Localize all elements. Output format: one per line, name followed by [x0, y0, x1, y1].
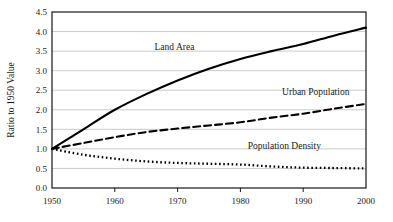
y-tick-label: 3.0 [36, 66, 48, 76]
y-axis-tick-labels: 0.00.51.01.52.02.53.03.54.04.5 [36, 7, 48, 193]
y-tick-label: 1.0 [36, 144, 48, 154]
y-tick-label: 4.0 [36, 27, 48, 37]
x-tick-label: 1950 [43, 196, 62, 206]
x-axis-tickmarks [115, 188, 303, 192]
series-annotations: Land AreaUrban PopulationPopulation Dens… [155, 42, 350, 151]
x-tick-label: 1960 [106, 196, 125, 206]
x-tick-label: 1990 [294, 196, 313, 206]
y-tick-label: 0.5 [36, 164, 48, 174]
plot-frame [52, 12, 366, 188]
x-tick-label: 1970 [169, 196, 188, 206]
x-tick-label: 2000 [357, 196, 376, 206]
y-tick-label: 2.5 [36, 85, 48, 95]
line-chart: 0.00.51.01.52.02.53.03.54.04.5 195019601… [0, 0, 393, 222]
y-tick-label: 4.5 [36, 7, 48, 17]
x-axis-tick-labels: 195019601970198019902000 [43, 196, 376, 206]
chart-page: 0.00.51.01.52.02.53.03.54.04.5 195019601… [0, 0, 393, 222]
y-tick-label: 1.5 [36, 125, 48, 135]
y-tick-label: 3.5 [36, 46, 48, 56]
x-tick-label: 1980 [231, 196, 250, 206]
series-label-population-density: Population Density [248, 141, 321, 151]
y-axis-title: Ratio to 1950 Value [6, 62, 16, 138]
y-tick-label: 2.0 [36, 105, 48, 115]
series-line-population-density [52, 149, 366, 169]
series-label-land-area: Land Area [155, 42, 196, 52]
series-label-urban-population: Urban Population [282, 87, 350, 97]
y-tick-label: 0.0 [36, 183, 48, 193]
